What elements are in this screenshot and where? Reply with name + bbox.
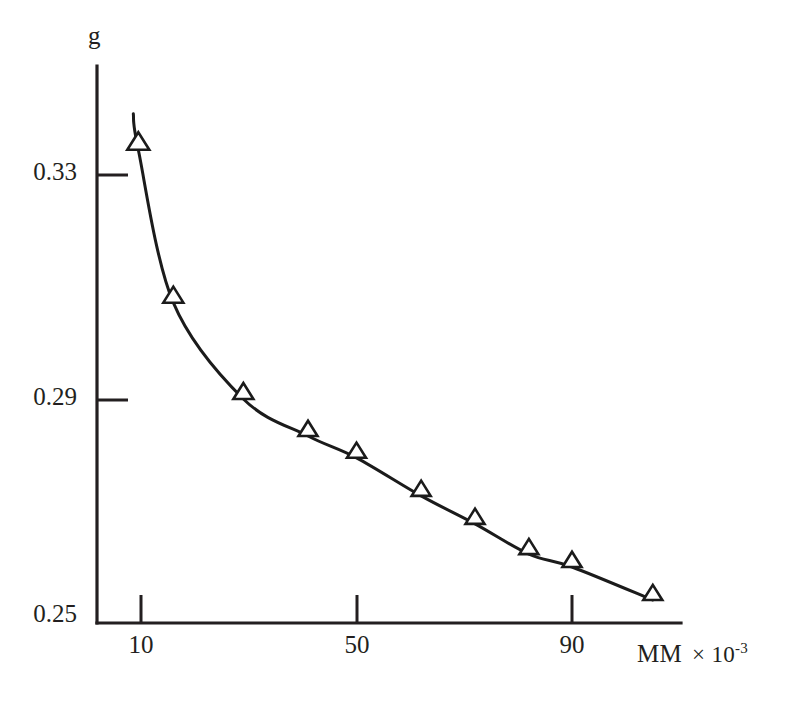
chart-figure: g MM× 10-3 0.33 0.29 0.25 10 50 90 bbox=[0, 0, 803, 707]
y-tick-label-025: 0.25 bbox=[0, 600, 77, 628]
y-tick-label-033: 0.33 bbox=[0, 158, 77, 186]
x-tick-label-10: 10 bbox=[111, 631, 171, 659]
chart-plot-area bbox=[0, 0, 803, 707]
x-tick-label-90: 90 bbox=[542, 631, 602, 659]
data-point-marker bbox=[519, 539, 538, 554]
data-point-marker bbox=[412, 481, 431, 496]
x-axis-exponent: -3 bbox=[735, 640, 748, 656]
data-point-marker bbox=[347, 443, 366, 458]
y-axis-title: g bbox=[88, 22, 101, 50]
data-point-marker bbox=[563, 552, 582, 567]
data-point-marker bbox=[643, 585, 662, 600]
series-curve bbox=[133, 114, 653, 600]
x-tick-label-50: 50 bbox=[327, 631, 387, 659]
data-point-marker bbox=[299, 421, 318, 436]
data-series-layer bbox=[127, 114, 662, 600]
data-point-marker bbox=[163, 287, 183, 303]
x-axis-unit: MM bbox=[637, 640, 682, 667]
x-axis-title: MM× 10-3 bbox=[637, 640, 748, 668]
data-point-marker bbox=[466, 509, 485, 524]
data-point-marker bbox=[127, 132, 149, 150]
y-tick-label-029: 0.29 bbox=[0, 383, 77, 411]
x-axis-multiplier: × 10 bbox=[682, 642, 735, 667]
